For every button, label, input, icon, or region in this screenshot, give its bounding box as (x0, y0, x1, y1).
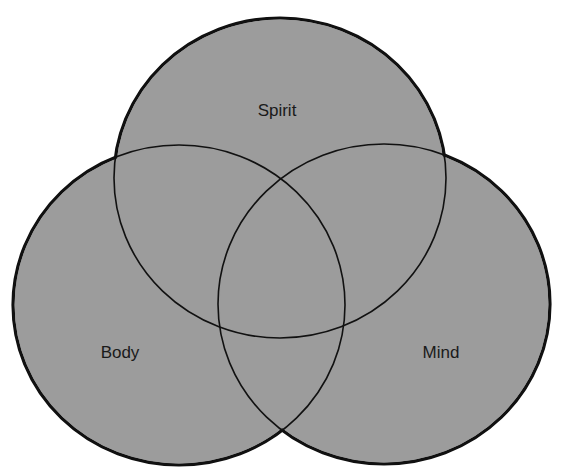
inner-fill-mind (220, 146, 549, 463)
inner-outlines (13, 18, 550, 465)
venn-diagram: Spirit Body Mind (0, 0, 562, 474)
label-body: Body (101, 343, 140, 362)
label-spirit: Spirit (258, 101, 297, 120)
label-mind: Mind (423, 343, 460, 362)
